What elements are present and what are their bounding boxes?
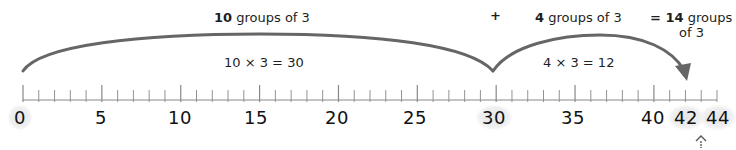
tick-label-42: 42 (668, 105, 704, 130)
jump2-top-label: 4 groups of 3 (535, 10, 622, 25)
tick-label-0: 0 (8, 105, 32, 130)
result-text: groups (684, 10, 733, 25)
result-line2: of 3 (679, 25, 704, 40)
tick-label-15: 15 (244, 107, 268, 128)
result-line1: = 14 groups (650, 10, 732, 25)
result-count: 14 (665, 10, 683, 25)
jump1-text: groups of 3 (232, 10, 310, 25)
tick-label-20: 20 (325, 107, 349, 128)
tick-label-10: 10 (168, 107, 192, 128)
tick-label-25: 25 (403, 107, 427, 128)
tick-label-5: 5 (95, 107, 107, 128)
plus-sign: + (490, 8, 501, 23)
result-prefix: = (650, 10, 665, 25)
jump1-count: 10 (214, 10, 232, 25)
dotted-up-chevron-icon (694, 134, 708, 148)
jump2-equation: 4 × 3 = 12 (543, 55, 614, 70)
jump2-text: groups of 3 (544, 10, 622, 25)
arrowhead-icon (675, 63, 691, 81)
jump1-top-label: 10 groups of 3 (214, 10, 310, 25)
tick-label-44: 44 (700, 105, 736, 130)
tick-label-35: 35 (561, 107, 585, 128)
tick-label-40: 40 (641, 107, 665, 128)
tick-label-30: 30 (476, 105, 512, 130)
jump1-equation: 10 × 3 = 30 (224, 55, 304, 70)
jump2-count: 4 (535, 10, 544, 25)
